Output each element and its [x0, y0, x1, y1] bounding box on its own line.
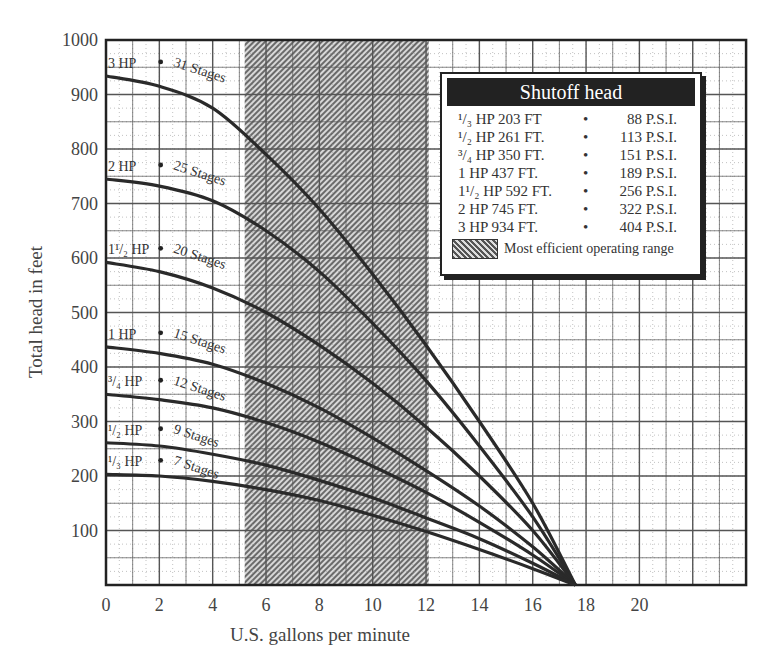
hatch-swatch-icon [452, 239, 498, 259]
legend-hp: 1 HP 437 FT. [458, 164, 583, 182]
legend-psi: 256 P.S.I. [597, 182, 677, 200]
y-tick-label: 200 [71, 466, 98, 486]
legend-title: Shutoff head [447, 78, 695, 106]
curve-stages-label: 12 Stages [172, 373, 228, 404]
curve-hp-label: 1 HP [108, 327, 137, 342]
legend-range-label: Most efficient operating range [504, 241, 674, 257]
legend-hp: ³/₄ HP 350 FT. [458, 146, 583, 164]
legend-dot: • [583, 164, 597, 182]
legend-dot: • [583, 218, 597, 236]
legend-psi: 88 P.S.I. [597, 110, 677, 128]
shutoff-dot-icon [158, 378, 163, 383]
y-axis-title: Total head in feet [25, 245, 46, 378]
legend-psi: 322 P.S.I. [597, 200, 677, 218]
legend-hp: 1¹/₂ HP 592 FT. [458, 182, 583, 200]
legend-dot: • [583, 110, 597, 128]
legend-row: ¹/₂ HP 261 FT.•113 P.S.I. [442, 128, 700, 146]
y-tick-label: 800 [71, 139, 98, 159]
curve-labels: 3 HP31 Stages2 HP25 Stages1¹/₂ HP20 Stag… [108, 55, 228, 482]
x-tick-label: 18 [577, 595, 595, 615]
curve-hp-label: 2 HP [108, 159, 137, 174]
legend-row: 1 HP 437 FT.•189 P.S.I. [442, 164, 700, 182]
y-tick-label: 700 [71, 194, 98, 214]
curve-stages-label: 9 Stages [172, 421, 221, 450]
legend-hp: ¹/₃ HP 203 FT [458, 110, 583, 128]
legend-row: 3 HP 934 FT.•404 P.S.I. [442, 218, 700, 236]
curve-hp-label: 1¹/₂ HP [108, 242, 150, 257]
x-tick-label: 0 [102, 595, 111, 615]
x-tick-label: 16 [524, 595, 542, 615]
shutoff-dot-icon [158, 458, 163, 463]
x-tick-label: 6 [262, 595, 271, 615]
x-tick-label: 8 [315, 595, 324, 615]
curve-stages-label: 31 Stages [172, 55, 228, 86]
curve-hp-label: ³/₄ HP [108, 374, 143, 389]
legend-range-entry: Most efficient operating range [442, 239, 700, 259]
legend-dot: • [583, 146, 597, 164]
legend-hp: 3 HP 934 FT. [458, 218, 583, 236]
y-tick-label: 300 [71, 412, 98, 432]
legend-hp: 2 HP 745 FT. [458, 200, 583, 218]
shutoff-dot-icon [158, 330, 163, 335]
y-tick-label: 600 [71, 248, 98, 268]
x-axis-title: U.S. gallons per minute [230, 624, 410, 645]
x-tick-label: 2 [155, 595, 164, 615]
x-tick-label: 14 [470, 595, 488, 615]
y-tick-label: 400 [71, 357, 98, 377]
curve-hp-label: 3 HP [108, 56, 137, 71]
y-tick-label: 1000 [62, 30, 98, 50]
legend-psi: 189 P.S.I. [597, 164, 677, 182]
legend-box: Shutoff head ¹/₃ HP 203 FT•88 P.S.I.¹/₂ … [440, 72, 702, 276]
x-tick-label: 10 [364, 595, 382, 615]
legend-dot: • [583, 128, 597, 146]
curve-stages-label: 15 Stages [172, 325, 228, 356]
legend-dot: • [583, 200, 597, 218]
shutoff-dot-icon [158, 246, 163, 251]
legend-rows: ¹/₃ HP 203 FT•88 P.S.I.¹/₂ HP 261 FT.•11… [442, 110, 700, 236]
legend-hp: ¹/₂ HP 261 FT. [458, 128, 583, 146]
curve-hp-label: ¹/₂ HP [108, 423, 143, 438]
legend-row: ¹/₃ HP 203 FT•88 P.S.I. [442, 110, 700, 128]
legend-psi: 113 P.S.I. [597, 128, 677, 146]
shutoff-dot-icon [158, 426, 163, 431]
x-tick-label: 12 [417, 595, 435, 615]
curve-stages-label: 20 Stages [172, 241, 228, 272]
curve-hp-label: ¹/₃ HP [108, 454, 143, 469]
y-tick-label: 900 [71, 85, 98, 105]
legend-psi: 404 P.S.I. [597, 218, 677, 236]
legend-row: 2 HP 745 FT.•322 P.S.I. [442, 200, 700, 218]
y-tick-label: 500 [71, 303, 98, 323]
legend-dot: • [583, 182, 597, 200]
x-tick-label: 20 [630, 595, 648, 615]
y-tick-label: 100 [71, 521, 98, 541]
legend-row: 1¹/₂ HP 592 FT.•256 P.S.I. [442, 182, 700, 200]
shutoff-dot-icon [158, 60, 163, 65]
legend-psi: 151 P.S.I. [597, 146, 677, 164]
shutoff-dot-icon [158, 163, 163, 168]
x-tick-label: 4 [208, 595, 217, 615]
curve-stages-label: 25 Stages [172, 158, 228, 189]
legend-row: ³/₄ HP 350 FT.•151 P.S.I. [442, 146, 700, 164]
